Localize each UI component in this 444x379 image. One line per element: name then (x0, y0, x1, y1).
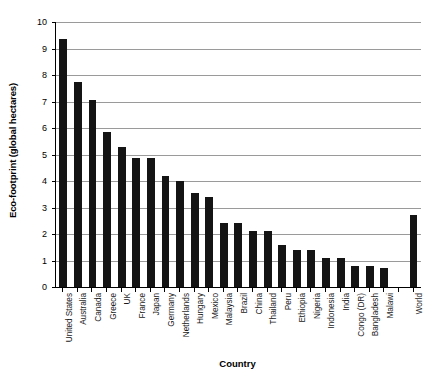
bar-slot (144, 22, 159, 287)
y-axis-tick-label: 3 (42, 203, 47, 213)
x-axis-label-slot: Greece (99, 293, 114, 355)
x-axis-label-slot: Hungary (186, 293, 201, 355)
x-axis-label-slot: China (245, 293, 260, 355)
bar (89, 100, 97, 287)
bar-slot (158, 22, 173, 287)
x-axis-label-slot: Congo (DR) (347, 293, 362, 355)
x-axis-title: Country (55, 358, 420, 369)
x-axis-tickmark (186, 288, 201, 292)
x-axis-tickmark (347, 288, 362, 292)
bar-slot (362, 22, 377, 287)
x-axis-label-slot (391, 293, 406, 355)
bar-slot (217, 22, 232, 287)
x-axis-label-slot: Indonesia (318, 293, 333, 355)
bar-slot (85, 22, 100, 287)
plot-area (55, 22, 421, 288)
bar (337, 258, 345, 287)
y-axis-tick-label: 4 (42, 176, 47, 186)
y-axis-tick-label: 0 (42, 282, 47, 292)
bar (410, 215, 418, 287)
x-axis-label-slot: Netherlands (172, 293, 187, 355)
y-axis-tick-labels: 109876543210 (26, 0, 51, 300)
x-axis-tickmark (230, 288, 245, 292)
x-axis-tickmark (405, 288, 420, 292)
bar-slot (246, 22, 261, 287)
bar-slot (406, 22, 421, 287)
bar-slot (71, 22, 86, 287)
x-axis-label-slot: Thailand (259, 293, 274, 355)
bars-container (56, 22, 421, 287)
bar-slot (348, 22, 363, 287)
x-axis-label-slot: Malaysia (216, 293, 231, 355)
x-axis-tickmark (245, 288, 260, 292)
x-axis-tickmark (361, 288, 376, 292)
bar-slot (290, 22, 305, 287)
x-axis-tickmark (201, 288, 216, 292)
x-axis-tickmark (259, 288, 274, 292)
x-axis-label-slot: Nigeria (303, 293, 318, 355)
bar (103, 132, 111, 287)
y-axis-tick-label: 10 (37, 17, 47, 27)
bar-slot (392, 22, 407, 287)
x-axis-label-slot: Japan (143, 293, 158, 355)
x-axis-tickmark (113, 288, 128, 292)
bar (249, 231, 257, 287)
bar (380, 268, 388, 287)
y-axis-tick-label: 9 (42, 44, 47, 54)
bar-slot (377, 22, 392, 287)
bar (220, 223, 228, 287)
x-axis-tickmark (157, 288, 172, 292)
bar-slot (100, 22, 115, 287)
x-axis-label-slot: Ethiopia (289, 293, 304, 355)
bar-slot (260, 22, 275, 287)
bar-slot (173, 22, 188, 287)
bar (59, 39, 67, 287)
bar-slot (319, 22, 334, 287)
x-axis-label-slot: Mexico (201, 293, 216, 355)
x-axis-label-slot: Germany (157, 293, 172, 355)
x-axis-tickmark (55, 288, 70, 292)
x-axis-label-slot: Bangladesh (361, 293, 376, 355)
x-axis-tickmark (216, 288, 231, 292)
x-axis-label-slot: Canada (84, 293, 99, 355)
bar-slot (333, 22, 348, 287)
x-axis-tickmark (128, 288, 143, 292)
x-axis-tickmark (274, 288, 289, 292)
x-axis-label-slot: Malawi (376, 293, 391, 355)
bar (278, 245, 286, 287)
x-axis-tickmark (391, 288, 406, 292)
bar (74, 82, 82, 287)
bar-slot (202, 22, 217, 287)
eco-footprint-bar-chart: Eco-footprint (global hectares) 10987654… (0, 0, 444, 379)
bar-slot (56, 22, 71, 287)
x-axis-category-labels: United StatesAustraliaCanadaGreeceUKFran… (55, 293, 420, 355)
y-axis-tick-label: 6 (42, 123, 47, 133)
bar (205, 197, 213, 287)
bar-slot (129, 22, 144, 287)
x-axis-tickmark (143, 288, 158, 292)
x-axis-label-slot: UK (113, 293, 128, 355)
bar-slot (275, 22, 290, 287)
bar-slot (114, 22, 129, 287)
bar (176, 181, 184, 287)
x-axis-label-slot: India (332, 293, 347, 355)
x-axis-tickmark (289, 288, 304, 292)
x-axis-label-slot: Brazil (230, 293, 245, 355)
bar (293, 250, 301, 287)
x-axis-tickmark (303, 288, 318, 292)
x-axis-category-label: World (416, 293, 424, 314)
x-axis-label-slot: France (128, 293, 143, 355)
bar (366, 266, 374, 287)
bar (234, 223, 242, 287)
bar (264, 231, 272, 287)
bar (322, 258, 330, 287)
x-axis-tickmark (376, 288, 391, 292)
x-axis-label-slot: World (405, 293, 420, 355)
x-axis-tickmark (318, 288, 333, 292)
y-axis-tick-label: 2 (42, 229, 47, 239)
bar (307, 250, 315, 287)
bar-slot (304, 22, 319, 287)
x-axis-label-slot: Australia (70, 293, 85, 355)
bar (191, 193, 199, 287)
y-axis-tick-label: 8 (42, 70, 47, 80)
